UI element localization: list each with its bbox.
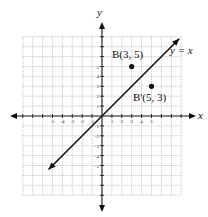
data-point	[129, 64, 134, 69]
y-axis-up-arrow-icon	[99, 22, 105, 29]
y-tick-label: 4	[97, 74, 100, 79]
y-tick-label: -3	[95, 144, 100, 149]
x-tick-label: 4	[140, 119, 143, 124]
y-tick-label: 3	[97, 84, 100, 89]
coordinate-plane: -5-4-3-2-112345-5-4-3-2-112345 x y y = x…	[0, 0, 208, 217]
x-tick-label: 3	[130, 119, 133, 124]
y-tick-label: -5	[95, 164, 100, 169]
y-tick-label: 5	[97, 65, 100, 70]
y-tick-label: -1	[95, 124, 100, 129]
x-tick-label: 2	[121, 119, 124, 124]
point-b-prime-label: B'(5, 3)	[133, 91, 166, 104]
x-tick-label: -5	[50, 119, 55, 124]
x-tick-label: -4	[60, 119, 65, 124]
point-b-label: B(3, 5)	[112, 48, 144, 61]
x-axis-right-arrow-icon	[189, 113, 196, 119]
line-label: y = x	[169, 44, 193, 56]
y-tick-label: 1	[97, 104, 100, 109]
x-tick-label: 1	[111, 119, 114, 124]
x-tick-label: -2	[80, 119, 85, 124]
x-axis-left-arrow-icon	[10, 113, 17, 119]
x-tick-label: -3	[70, 119, 75, 124]
y-tick-label: 2	[97, 94, 100, 99]
y-axis-down-arrow-icon	[99, 205, 105, 212]
data-point	[149, 84, 154, 89]
x-tick-label: 5	[150, 119, 153, 124]
y-tick-label: -4	[95, 154, 100, 159]
y-tick-label: -2	[95, 134, 100, 139]
x-axis-label: x	[197, 109, 203, 121]
y-axis-label: y	[96, 6, 102, 18]
